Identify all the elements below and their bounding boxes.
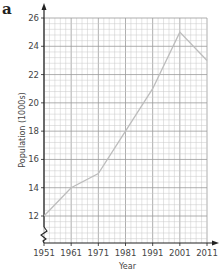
y-axis-title: Population (1000s) xyxy=(18,92,27,167)
y-tick-label: 20 xyxy=(28,98,39,108)
y-tick-label: 16 xyxy=(28,154,39,164)
x-axis-ticks: 1951196119711981199120012011 xyxy=(33,243,218,258)
y-axis-arrow-icon xyxy=(42,3,47,10)
line-chart: 1214161820222426 19511961197119811991200… xyxy=(0,0,219,273)
y-tick-label: 14 xyxy=(28,183,39,193)
y-axis-ticks: 1214161820222426 xyxy=(28,13,44,221)
x-axis-arrow-icon xyxy=(212,241,219,246)
y-tick-label: 22 xyxy=(28,70,39,80)
x-tick-label: 2011 xyxy=(196,248,218,258)
y-tick-label: 26 xyxy=(28,13,39,23)
y-tick-label: 24 xyxy=(28,41,39,51)
y-tick-label: 18 xyxy=(28,126,39,136)
x-tick-label: 1981 xyxy=(115,248,137,258)
x-tick-label: 1961 xyxy=(60,248,82,258)
y-tick-label: 12 xyxy=(28,211,39,221)
x-axis-title: Year xyxy=(118,262,137,271)
x-tick-label: 2001 xyxy=(169,248,191,258)
x-tick-label: 1971 xyxy=(88,248,110,258)
x-tick-label: 1951 xyxy=(33,248,55,258)
x-tick-label: 1991 xyxy=(142,248,164,258)
